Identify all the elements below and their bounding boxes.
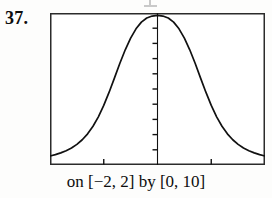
plot-svg bbox=[50, 13, 265, 165]
scan-artifact bbox=[143, 0, 159, 7]
figure-root: 37. on [−2, 2] by [0, 10] bbox=[0, 0, 272, 198]
scan-artifact-foot bbox=[144, 5, 157, 7]
plot-window bbox=[50, 13, 265, 165]
problem-number: 37. bbox=[5, 9, 28, 27]
window-caption: on [−2, 2] by [0, 10] bbox=[0, 171, 272, 192]
